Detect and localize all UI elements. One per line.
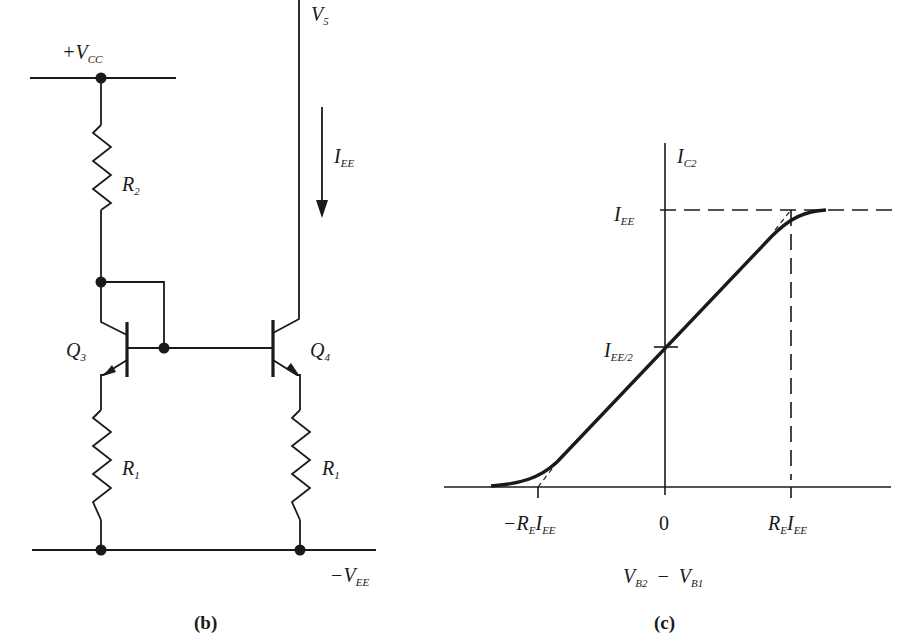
caption-b: (b): [194, 612, 217, 634]
label-vcc: +VCC: [62, 42, 102, 65]
plot-c: [444, 143, 892, 498]
label-r2: R2: [122, 174, 140, 197]
resistor-r1-right: [292, 410, 310, 520]
label-iee-current: IEE: [334, 146, 354, 169]
resistor-r2: [93, 125, 111, 210]
transfer-curve: [491, 210, 826, 486]
label-r1-right: R1: [322, 458, 340, 481]
q4-emitter: [273, 360, 300, 410]
junction-dot: [295, 545, 306, 556]
x-tick-label-zero: 0: [659, 513, 669, 533]
x-axis-label: VB2 − VB1: [623, 566, 703, 589]
junction-dot: [96, 545, 107, 556]
q3-emitter: [101, 360, 127, 410]
label-q3: Q3: [66, 340, 86, 363]
q3-collector: [101, 282, 127, 335]
junction-dot: [159, 343, 170, 354]
arrow-down-icon: [316, 200, 328, 218]
x-tick-label-pos: REIEE: [768, 513, 807, 536]
label-v5: V5: [311, 4, 329, 27]
y-tick-label-iee: IEE: [614, 204, 634, 227]
label-vee: −VEE: [330, 565, 369, 588]
y-tick-label-iee-half: IEE/2: [604, 340, 633, 363]
y-axis-label: IC2: [677, 146, 697, 169]
diode-connect-wire: [101, 282, 164, 348]
junction-dot: [96, 277, 107, 288]
circuit-b-fills: [96, 73, 329, 556]
label-r1-left: R1: [122, 458, 140, 481]
q4-collector: [273, 0, 299, 333]
caption-c: (c): [654, 612, 675, 634]
junction-dot: [96, 73, 107, 84]
label-q4: Q4: [310, 340, 330, 363]
resistor-r1-left: [93, 410, 111, 520]
q3-emitter-arrow-icon: [103, 365, 116, 376]
x-tick-label-neg: −REIEE: [503, 513, 556, 536]
figure-canvas: [0, 0, 913, 642]
